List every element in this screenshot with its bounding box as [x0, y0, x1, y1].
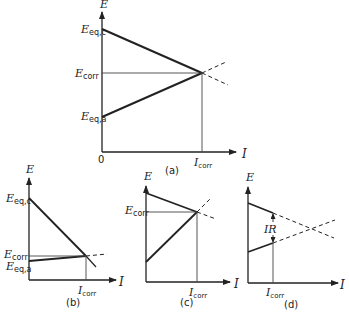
caption-b: (b): [66, 297, 80, 308]
panel-b: E I Eeq,c Ecorr Eeq,a Icorr (b): [3, 163, 124, 308]
panel-c: E I Ecorr Icorr (c): [124, 170, 239, 308]
y-axis-label: E: [25, 163, 34, 176]
y-axis-label: E: [99, 0, 108, 11]
e-eq-a-label: Eeq,a: [5, 260, 32, 274]
i-corr-label: Icorr: [193, 156, 212, 170]
evans-diagrams: E I 0 Eeq,c Ecorr Eeq,a Icorr (a) E I Ee…: [0, 0, 349, 312]
cathodic-line: [248, 203, 273, 213]
anodic-extension: [197, 198, 211, 212]
ir-label: IR: [263, 223, 277, 236]
x-axis-label: I: [339, 278, 345, 292]
e-eq-c-label: Eeq,c: [5, 192, 31, 206]
cathodic-line: [29, 198, 86, 256]
caption-c: (c): [180, 297, 193, 308]
panel-a: E I 0 Eeq,c Ecorr Eeq,a Icorr (a): [74, 0, 247, 176]
anodic-line: [248, 243, 273, 252]
anodic-extension: [202, 62, 226, 73]
x-axis-label: I: [118, 275, 124, 289]
anodic-line: [29, 256, 86, 261]
cathodic-extension: [273, 213, 334, 238]
anodic-extension: [86, 254, 107, 256]
anodic-line: [102, 73, 202, 117]
panel-d: E I IR Icorr (d): [245, 171, 345, 310]
anodic-line: [146, 212, 197, 262]
cathodic-line: [146, 193, 197, 212]
y-axis-label: E: [143, 170, 152, 183]
cathodic-line: [102, 29, 202, 73]
anodic-extension: [273, 220, 335, 243]
cathodic-extension: [197, 212, 216, 219]
caption-a: (a): [165, 165, 179, 176]
caption-d: (d): [284, 299, 298, 310]
y-axis-label: E: [245, 171, 254, 184]
cathodic-extension: [86, 256, 96, 267]
i-corr-label: Icorr: [265, 286, 284, 300]
origin-label: 0: [98, 154, 104, 165]
cathodic-extension: [202, 73, 228, 85]
x-axis-label: I: [241, 147, 247, 161]
i-corr-label: Icorr: [77, 284, 96, 298]
x-axis-label: I: [233, 277, 239, 291]
e-corr-label: Ecorr: [74, 67, 99, 81]
